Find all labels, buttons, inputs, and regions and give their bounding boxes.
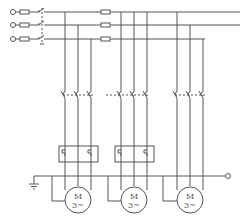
motor-3: M 3~ [177,187,203,213]
input-terminals [11,10,16,42]
motor-1: M 3~ [65,187,91,213]
branch-fuses [101,10,110,41]
motor-sublabel: 3~ [184,201,196,210]
motor-sublabel: 3~ [128,201,140,210]
circuit-diagram: M 3~ M 3~ M 3~ [0,0,240,224]
motor-label: M [186,192,194,201]
contactor-1 [61,91,94,98]
contactor-3 [173,91,206,98]
main-switch [39,8,44,44]
ground-bar [29,174,231,190]
motor-2: M 3~ [121,187,147,213]
motor-label: M [130,192,138,201]
motor-sublabel: 3~ [72,201,84,210]
bus-lines [44,12,240,39]
feeders [65,12,203,92]
input-fuses [16,10,40,41]
contactor-2 [106,91,150,98]
motor-label: M [74,192,82,201]
